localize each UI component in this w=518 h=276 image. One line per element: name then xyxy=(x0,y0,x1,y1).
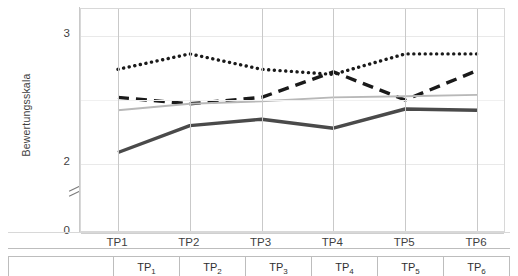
x-tick-label-TP6: TP6 xyxy=(446,236,506,248)
category-line-TP6 xyxy=(477,9,478,231)
table-header-cell-3: TP3 xyxy=(245,257,311,276)
category-line-TP4 xyxy=(333,9,334,231)
table-header-cell-4: TP4 xyxy=(311,257,377,276)
divider-rule-lower xyxy=(8,248,510,249)
table-header-subscript: 5 xyxy=(415,267,419,276)
x-tick-label-TP3: TP3 xyxy=(231,236,291,248)
table-header-label: TP1 xyxy=(137,261,156,276)
table-header-label: TP3 xyxy=(269,261,288,276)
table-header-subscript: 6 xyxy=(481,267,485,276)
x-tick-label-TP2: TP2 xyxy=(159,236,219,248)
table-corner-cell xyxy=(9,257,113,276)
series-line-0 xyxy=(118,54,477,75)
x-tick-label-TP4: TP4 xyxy=(302,236,362,248)
category-line-TP5 xyxy=(405,9,406,231)
data-table-header-row: TP1TP2TP3TP4TP5TP6 xyxy=(8,256,510,276)
chart-screenshot: Bewertungsskala 023 TP1TP2TP3TP4TP5TP6 T… xyxy=(0,0,518,276)
table-header-label: TP2 xyxy=(203,261,222,276)
series-line-3 xyxy=(118,109,477,153)
gridline-3 xyxy=(81,36,504,37)
y-tick-label-3: 3 xyxy=(44,27,70,39)
gridline-2 xyxy=(81,164,504,165)
gridline-minor xyxy=(81,100,504,101)
x-tick-label-TP1: TP1 xyxy=(87,236,147,248)
y-axis-title: Bewertungsskala xyxy=(20,45,32,185)
table-header-subscript: 1 xyxy=(151,267,155,276)
gridline-0 xyxy=(81,233,504,234)
y-tick-label-0: 0 xyxy=(44,224,70,236)
table-header-cell-5: TP5 xyxy=(377,257,443,276)
table-header-subscript: 2 xyxy=(217,267,221,276)
table-header-cell-6: TP6 xyxy=(443,257,509,276)
series-lines xyxy=(81,9,506,233)
table-header-cell-2: TP2 xyxy=(179,257,245,276)
divider-rule-upper xyxy=(8,232,510,233)
table-header-label: TP5 xyxy=(401,261,420,276)
table-header-subscript: 4 xyxy=(349,267,353,276)
table-header-label: TP4 xyxy=(335,261,354,276)
table-header-subscript: 3 xyxy=(283,267,287,276)
category-line-TP2 xyxy=(190,9,191,231)
category-line-TP3 xyxy=(262,9,263,231)
table-header-cell-1: TP1 xyxy=(113,257,179,276)
category-line-TP1 xyxy=(118,9,119,231)
y-tick-label-2: 2 xyxy=(44,155,70,167)
table-header-label: TP6 xyxy=(467,261,486,276)
x-tick-label-TP5: TP5 xyxy=(374,236,434,248)
plot-area xyxy=(80,8,505,232)
